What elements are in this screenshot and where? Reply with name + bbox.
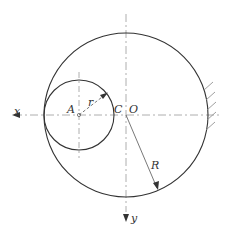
wall-hatching (204, 82, 216, 130)
small-radius-label: r (88, 97, 93, 108)
large-radius-label: R (151, 160, 159, 171)
point-a-label: A (67, 104, 75, 115)
large-radius-line (126, 115, 157, 188)
geometry-figure (0, 0, 226, 234)
large-radius-arrow-icon (153, 181, 159, 190)
x-axis-label: x (14, 106, 20, 117)
y-axis-label: y (131, 213, 137, 224)
point-c-label: C (114, 104, 122, 115)
diagram: x y A C O r R (0, 0, 226, 234)
point-o-label: O (129, 104, 138, 115)
y-axis-arrow-icon (123, 214, 129, 222)
